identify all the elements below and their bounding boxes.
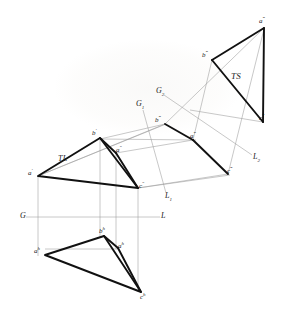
fold-label-g: G	[20, 212, 26, 220]
vertex-label-b-aux1: b‴	[155, 115, 161, 124]
vertex-label-b-horiz: bh	[99, 226, 105, 235]
aux2-edge-a-b	[212, 28, 264, 60]
fold-label-g1: G1	[136, 100, 144, 110]
vertex-label-a-aux2: a‴	[259, 16, 265, 25]
fold-label-l1: L1	[165, 192, 172, 202]
vertex-label-a-front2: a″	[116, 145, 122, 154]
aux2-edge-b-c	[212, 60, 263, 122]
true-length-annotation: TL	[58, 155, 68, 163]
aux1-edge-a-c	[193, 140, 228, 174]
vertex-label-a-front: a′	[28, 168, 33, 177]
vertex-label-c-front: c″	[139, 181, 144, 190]
projector-aux1-a	[100, 139, 196, 140]
vertex-label-a-aux1: a‴	[190, 131, 196, 140]
projector-aux1-edge-lower	[138, 174, 228, 188]
vertex-label-c-horiz: ch	[140, 292, 146, 301]
vertex-label-b-front: b′	[92, 128, 97, 137]
fold-line-g2l2	[164, 95, 252, 155]
projector-aux2-a	[193, 60, 212, 140]
projection-drawing	[0, 0, 292, 313]
vertex-label-c-aux1: c‴	[227, 166, 232, 175]
vertex-label-b-aux2: b‴	[202, 50, 208, 59]
fold-label-l2: L2	[253, 153, 260, 163]
vertex-label-a-horiz2: ah	[118, 241, 124, 250]
triangle-outlines	[38, 28, 264, 292]
projector-aux1-edge-upper	[100, 124, 165, 139]
aux2-edge-c-a	[263, 28, 264, 122]
aux1-edge-b-a	[165, 124, 193, 140]
fold-label-l: L	[161, 212, 165, 220]
frontal-edge-a2-c	[116, 153, 138, 188]
vertex-label-c-aux2: c‴	[259, 113, 264, 122]
construction-tl-band	[38, 124, 165, 176]
true-shape-annotation: TS	[231, 72, 241, 81]
drawing-canvas: G L G1 L1 G2 L2 TL TS a′ b′ a″ c″ ah bh …	[0, 0, 292, 313]
fold-label-g2: G2	[156, 87, 164, 97]
vertex-label-a-horiz: ah	[34, 246, 40, 255]
projector-aux2-b	[165, 28, 264, 124]
